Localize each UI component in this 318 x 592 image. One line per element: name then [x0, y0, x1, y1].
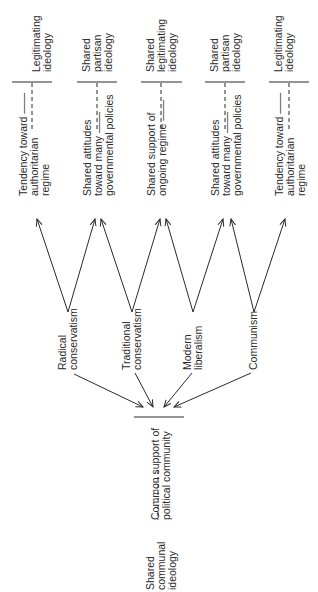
bottom-left-label: Shared communal ideology [145, 542, 178, 590]
top-upper-2: Shared partisan ideology [81, 33, 114, 72]
top-upper-4: Shared partisan ideology [209, 33, 242, 72]
label-line: ongoing regime —— [157, 100, 168, 196]
label-line: conservatism [132, 308, 143, 370]
top-lower-1: Tendency toward —— authoritarian regime [18, 93, 51, 196]
top-lower-2: Shared attitudes toward many —— governme… [82, 94, 115, 196]
bottom-right-label: Common support of political community [150, 428, 172, 520]
label-line: ideology [167, 542, 178, 590]
top-upper-1: Legitimating ideology [31, 15, 53, 72]
label-line: ideology [167, 19, 178, 72]
label-line: ideology [103, 33, 114, 72]
ideology-traditional-conservatism: Traditional conservatism [121, 308, 143, 370]
top-lower-3: Shared support of ongoing regime —— [146, 100, 168, 196]
ideology-modern-liberalism: Modern liberalism [182, 326, 204, 370]
label-line: governmental policies [104, 94, 115, 196]
top-upper-3: Shared legitimating ideology [145, 19, 178, 72]
label-line: conservatism [68, 308, 79, 370]
label-line: political community [161, 428, 172, 520]
label-line: governmental policies [232, 94, 243, 196]
label-line: liberalism [193, 326, 204, 370]
top-lower-5: Tendency toward —— authoritarian regime [274, 93, 307, 196]
label-line: Communism [248, 311, 259, 370]
label-line: regime [40, 93, 51, 196]
top-lower-4: Shared attitudes toward many —— governme… [210, 94, 243, 196]
label-line: ideology [42, 15, 53, 72]
label-line: regime [296, 93, 307, 196]
label-line: ideology [284, 15, 295, 72]
label-line: ideology [231, 33, 242, 72]
top-upper-5: Legitimating ideology [273, 15, 295, 72]
ideology-communism: Communism [248, 311, 259, 370]
ideology-radical-conservatism: Radical conservatism [57, 308, 79, 370]
